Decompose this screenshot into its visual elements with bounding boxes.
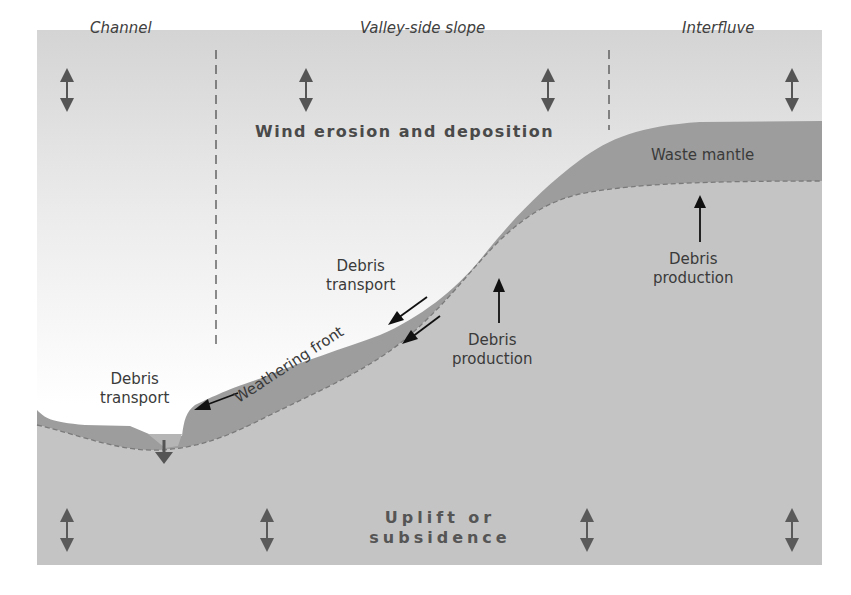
zone-label-valley-side-slope: Valley-side slope <box>360 19 485 38</box>
debris-transport-label-lower: Debris transport <box>100 370 169 408</box>
debris-transport-label-upper: Debris transport <box>326 257 395 295</box>
zone-label-channel: Channel <box>90 19 152 38</box>
label-line: Debris <box>326 257 395 276</box>
process-label-uplift-line2: subsidence <box>365 528 515 548</box>
process-label-uplift: Uplift or subsidence <box>365 508 515 548</box>
hillslope-diagram <box>0 0 851 595</box>
process-label-wind: Wind erosion and deposition <box>255 122 554 141</box>
label-line: production <box>452 350 533 369</box>
label-line: Debris <box>653 250 734 269</box>
zone-label-interfluve: Interfluve <box>682 19 755 38</box>
process-label-uplift-line1: Uplift or <box>365 508 515 528</box>
label-line: transport <box>100 389 169 408</box>
label-line: Debris <box>452 331 533 350</box>
label-line: production <box>653 269 734 288</box>
label-line: Debris <box>100 370 169 389</box>
waste-mantle-label: Waste mantle <box>651 146 754 165</box>
label-line: transport <box>326 276 395 295</box>
debris-production-label-slope: Debris production <box>452 331 533 369</box>
debris-production-label-interfluve: Debris production <box>653 250 734 288</box>
